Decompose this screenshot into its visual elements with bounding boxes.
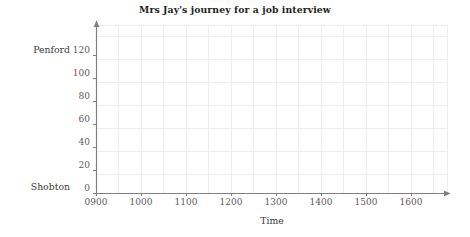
x-axis-title: Time [96, 215, 448, 226]
y-tick-label-80: 80 [56, 91, 90, 101]
distance-time-chart: Mrs Jay's journey for a job interview [0, 0, 470, 237]
y-tick-label-60: 60 [56, 114, 90, 124]
y-endpoint-label-penford: Penford [8, 44, 70, 55]
y-endpoint-label-shobton: Shobton [8, 181, 70, 192]
x-tick-label-1600: 1600 [385, 197, 437, 207]
y-tick-label-20: 20 [56, 160, 90, 170]
y-tick-label-100: 100 [56, 68, 90, 78]
y-tick-label-40: 40 [56, 137, 90, 147]
